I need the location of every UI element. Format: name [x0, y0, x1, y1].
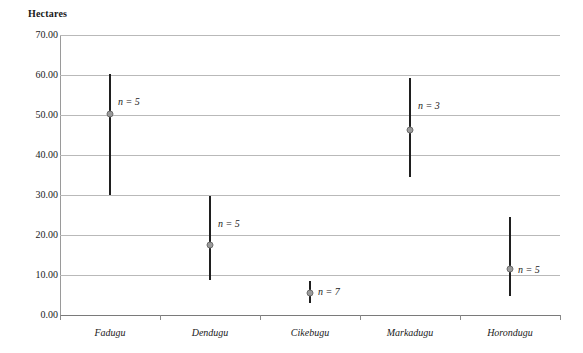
- sample-size-label-fadugu: n = 5: [118, 96, 140, 107]
- gridline-60: [60, 75, 560, 76]
- y-tick-label: 40.00: [4, 149, 58, 160]
- y-tick-label: 60.00: [4, 69, 58, 80]
- x-axis-label-horondugu: Horondugu: [487, 327, 533, 338]
- y-axis-tick-labels: 0.0010.0020.0030.0040.0050.0060.0070.00: [0, 0, 58, 353]
- plot-area: n = 5n = 5n = 7n = 3n = 5: [60, 35, 560, 315]
- hectares-range-chart: Hectares 0.0010.0020.0030.0040.0050.0060…: [0, 0, 583, 353]
- mean-marker-markadugu: [407, 126, 414, 133]
- sample-size-label-cikebugu: n = 7: [318, 286, 340, 297]
- range-line-fadugu: [109, 74, 111, 195]
- sample-size-label-markadugu: n = 3: [418, 100, 440, 111]
- y-tick-label: 0.00: [4, 309, 58, 320]
- gridline-20: [60, 235, 560, 236]
- sample-size-label-horondugu: n = 5: [518, 264, 540, 275]
- x-axis-label-fadugu: Fadugu: [94, 327, 125, 338]
- x-axis: FaduguDenduguCikebuguMarkaduguHorondugu: [60, 315, 560, 353]
- gridline-40: [60, 155, 560, 156]
- range-line-horondugu: [509, 217, 511, 296]
- x-tick: [460, 315, 461, 320]
- gridline-50: [60, 115, 560, 116]
- x-tick: [260, 315, 261, 320]
- x-tick: [360, 315, 361, 320]
- gridline-30: [60, 195, 560, 196]
- mean-marker-fadugu: [107, 110, 114, 117]
- x-tick: [160, 315, 161, 320]
- mean-marker-horondugu: [507, 266, 514, 273]
- mean-marker-dendugu: [207, 242, 214, 249]
- y-tick-label: 30.00: [4, 189, 58, 200]
- y-tick-label: 50.00: [4, 109, 58, 120]
- x-tick: [60, 315, 61, 320]
- y-tick-label: 70.00: [4, 29, 58, 40]
- x-axis-label-dendugu: Dendugu: [192, 327, 229, 338]
- gridline-70: [60, 35, 560, 36]
- y-tick-label: 10.00: [4, 269, 58, 280]
- sample-size-label-dendugu: n = 5: [218, 218, 240, 229]
- mean-marker-cikebugu: [307, 290, 314, 297]
- y-tick-label: 20.00: [4, 229, 58, 240]
- range-line-dendugu: [209, 196, 211, 280]
- x-tick: [560, 315, 561, 320]
- x-axis-label-cikebugu: Cikebugu: [291, 327, 329, 338]
- gridline-10: [60, 275, 560, 276]
- x-axis-label-markadugu: Markadugu: [387, 327, 434, 338]
